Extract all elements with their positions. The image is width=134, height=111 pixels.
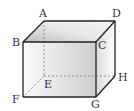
vertex-label-G: G — [91, 98, 100, 111]
vertex-label-F: F — [12, 93, 20, 106]
vertex-label-H: H — [118, 71, 128, 84]
cuboid-diagram: A D B C E H F G — [0, 0, 134, 111]
vertex-label-C: C — [98, 39, 106, 52]
vertex-label-B: B — [12, 36, 20, 49]
vertex-label-D: D — [112, 7, 121, 20]
vertex-label-A: A — [38, 7, 48, 20]
vertex-label-E: E — [44, 78, 52, 91]
front-face — [23, 42, 96, 97]
cuboid-figure: A D B C E H F G — [0, 0, 134, 111]
